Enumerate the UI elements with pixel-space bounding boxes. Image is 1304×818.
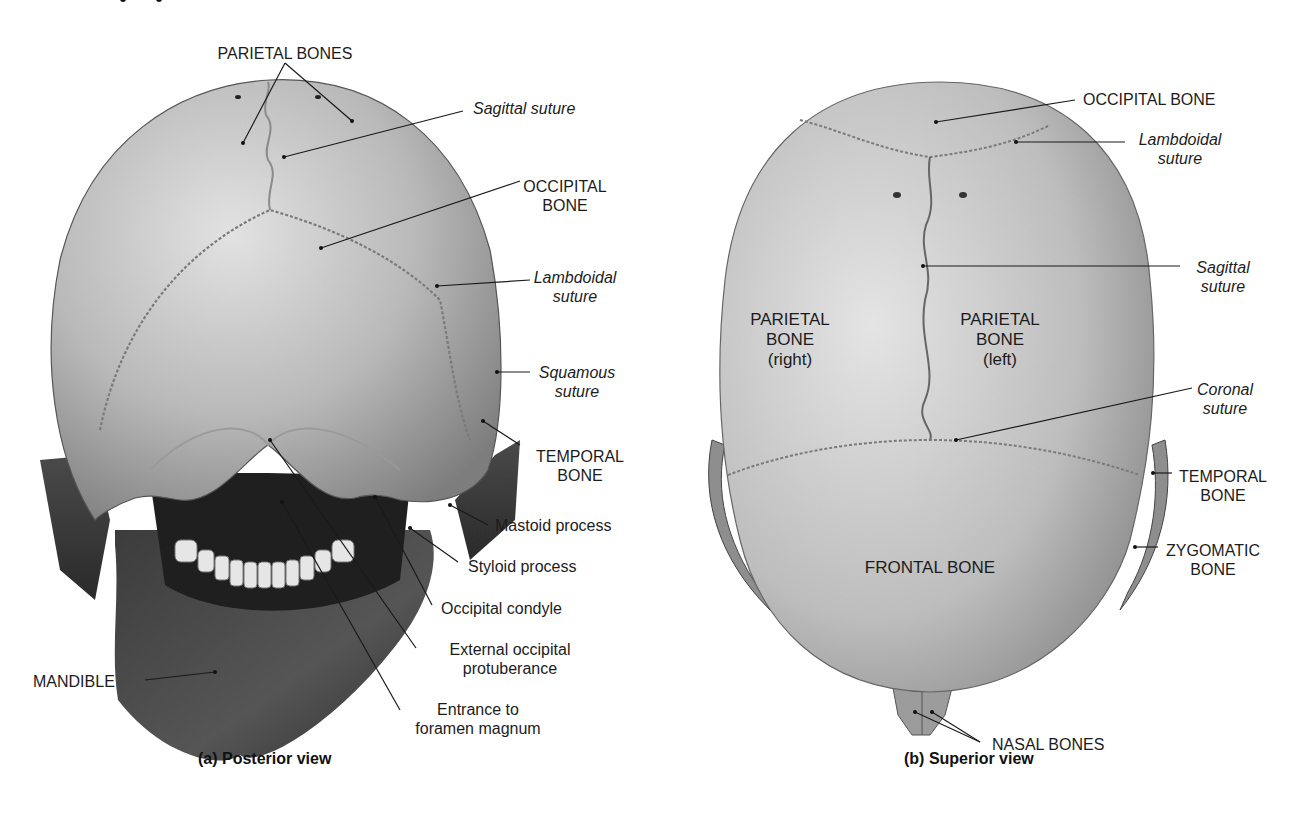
- label-sagittal-suture-superior: Sagittal suture: [1178, 258, 1268, 296]
- label-frontal-bone: FRONTAL BONE: [830, 558, 1030, 578]
- label-occipital-bone: OCCIPITAL BONE: [510, 177, 620, 215]
- caption-superior-view: (b) Superior view: [904, 750, 1034, 768]
- label-lambdoidal-suture-superior: Lambdoidal suture: [1125, 130, 1235, 168]
- label-parietal-bone-left: PARIETAL BONE (left): [945, 310, 1055, 370]
- label-occipital-bone-superior: OCCIPITAL BONE: [1083, 90, 1215, 109]
- skull-illustrations: [0, 0, 1304, 818]
- label-mastoid-process: Mastoid process: [495, 516, 612, 535]
- superior-skull: [709, 82, 1192, 742]
- label-styloid-process: Styloid process: [468, 557, 577, 576]
- label-zygomatic-bone: ZYGOMATIC BONE: [1158, 541, 1268, 579]
- label-lambdoidal-suture: Lambdoidal suture: [520, 268, 630, 306]
- label-occipital-condyle: Occipital condyle: [441, 599, 562, 618]
- label-parietal-bones: PARIETAL BONES: [210, 44, 360, 63]
- label-external-occipital-protuberance: External occipital protuberance: [420, 640, 600, 678]
- label-foramen-magnum: Entrance to foramen magnum: [398, 700, 558, 738]
- label-mandible: MANDIBLE: [33, 672, 115, 691]
- label-coronal-suture: Coronal suture: [1180, 380, 1270, 418]
- label-temporal-bone-superior: TEMPORAL BONE: [1168, 467, 1278, 505]
- caption-posterior-view: (a) Posterior view: [198, 750, 331, 768]
- label-parietal-bone-right: PARIETAL BONE (right): [735, 310, 845, 370]
- label-sagittal-suture: Sagittal suture: [473, 99, 575, 118]
- label-temporal-bone: TEMPORAL BONE: [520, 447, 640, 485]
- label-squamous-suture: Squamous suture: [522, 363, 632, 401]
